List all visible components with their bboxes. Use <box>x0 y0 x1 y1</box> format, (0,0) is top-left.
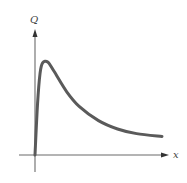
y-axis-arrow-icon <box>33 29 38 37</box>
x-axis-arrow-icon <box>161 153 169 158</box>
y-axis-label: Q <box>30 14 38 25</box>
x-axis-label: x <box>173 149 179 160</box>
data-curve <box>35 61 162 155</box>
chart: Q x <box>0 0 187 183</box>
